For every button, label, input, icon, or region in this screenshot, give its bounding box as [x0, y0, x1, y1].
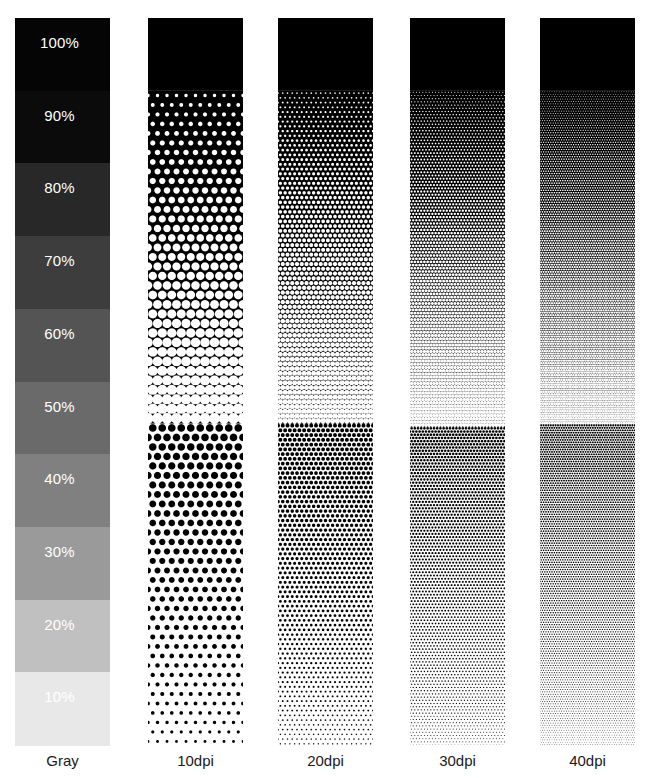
column-caption-40dpi: 40dpi — [540, 752, 635, 769]
gray-band-80 — [15, 163, 110, 237]
gray-band-10 — [15, 672, 110, 746]
halftone-canvas — [410, 18, 505, 745]
gray-band-30 — [15, 527, 110, 601]
chart-stage: 100%90%80%70%60%50%40%30%20%10% Gray 10d… — [0, 0, 650, 778]
gray-tone-column: 100%90%80%70%60%50%40%30%20%10% — [15, 18, 110, 745]
column-caption-10dpi: 10dpi — [148, 752, 243, 769]
gray-band-20 — [15, 600, 110, 674]
halftone-canvas — [148, 18, 243, 745]
halftone-column-20dpi — [278, 18, 373, 745]
gray-band-40 — [15, 454, 110, 528]
halftone-canvas — [540, 18, 635, 745]
halftone-column-40dpi — [540, 18, 635, 745]
halftone-column-30dpi — [410, 18, 505, 745]
column-caption-20dpi: 20dpi — [278, 752, 373, 769]
gray-band-90 — [15, 91, 110, 165]
halftone-canvas — [278, 18, 373, 745]
halftone-column-10dpi — [148, 18, 243, 745]
gray-band-60 — [15, 309, 110, 383]
column-caption-gray: Gray — [15, 752, 110, 769]
gray-band-70 — [15, 236, 110, 310]
gray-band-50 — [15, 382, 110, 456]
column-caption-30dpi: 30dpi — [410, 752, 505, 769]
gray-band-100 — [15, 18, 110, 92]
